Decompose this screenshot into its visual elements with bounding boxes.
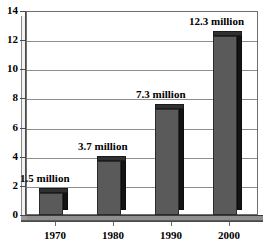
- bar: [97, 156, 126, 215]
- x-axis-tick: [55, 222, 56, 226]
- bar: [213, 31, 242, 215]
- bar-top-face: [155, 104, 184, 109]
- x-axis-line: [21, 221, 263, 222]
- x-axis-tick: [171, 222, 172, 226]
- bar-chart: 14121086420 1970198019902000 1.5 million…: [0, 0, 269, 251]
- y-axis-tick: [20, 128, 25, 129]
- y-axis-line: [25, 11, 26, 216]
- y-axis-label: 2: [0, 180, 18, 191]
- y-axis-label: 6: [0, 122, 18, 133]
- y-axis-tick: [20, 69, 25, 70]
- y-axis-label: 12: [0, 34, 18, 45]
- y-axis-label: 0: [0, 209, 18, 220]
- bar-value-label: 7.3 million: [136, 88, 186, 100]
- y-axis-label: 4: [0, 151, 18, 162]
- y-axis-tick: [20, 186, 25, 187]
- bar-value-label: 12.3 million: [189, 15, 244, 27]
- y-axis-tick: [20, 40, 25, 41]
- bar-front-face: [39, 193, 63, 215]
- bar-value-label: 1.5 million: [20, 172, 70, 184]
- x-axis-tick: [113, 222, 114, 226]
- bar-top-face: [39, 188, 68, 193]
- y-axis-tick: [20, 215, 25, 216]
- y-axis-tick: [20, 11, 25, 12]
- y-axis-label: 14: [0, 5, 18, 16]
- bar-top-face: [213, 31, 242, 36]
- x-axis-label: 1970: [26, 229, 84, 241]
- bar-front-face: [155, 109, 179, 215]
- y-axis-tick: [20, 98, 25, 99]
- bar: [155, 104, 184, 215]
- y-axis-label: 8: [0, 92, 18, 103]
- bar-value-label: 3.7 million: [78, 140, 128, 152]
- bar: [39, 188, 68, 215]
- bar-side-face: [237, 31, 242, 210]
- x-axis-label: 2000: [200, 229, 258, 241]
- bar-top-face: [97, 156, 126, 161]
- y-axis-label: 10: [0, 63, 18, 74]
- bar-front-face: [213, 36, 237, 215]
- y-axis-tick: [20, 157, 25, 158]
- x-axis-label: 1980: [84, 229, 142, 241]
- x-axis-tick: [229, 222, 230, 226]
- bar-front-face: [97, 161, 121, 215]
- x-axis-label: 1990: [142, 229, 200, 241]
- bar-side-face: [179, 104, 184, 210]
- bar-side-face: [121, 156, 126, 210]
